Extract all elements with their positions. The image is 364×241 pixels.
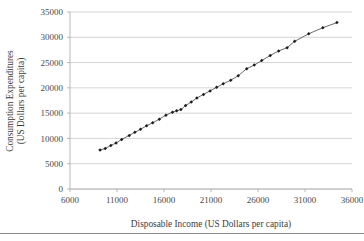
data-point-marker xyxy=(307,32,311,36)
data-point-marker xyxy=(335,21,339,25)
data-point-marker xyxy=(104,147,108,151)
x-tick-label-36000: 36000 xyxy=(341,195,364,205)
data-point-marker xyxy=(215,86,219,90)
data-point-marker xyxy=(229,79,233,83)
data-point-marker xyxy=(151,121,155,125)
data-point-marker xyxy=(260,59,264,63)
data-series xyxy=(98,21,338,152)
y-axis-title-line-2: (US Dollars per capita) xyxy=(16,58,27,144)
data-point-marker xyxy=(145,124,149,128)
y-tick-label-30000: 30000 xyxy=(41,32,64,42)
y-tick-labels: 05000100001500020000250003000035000 xyxy=(41,7,64,194)
data-point-marker xyxy=(127,134,131,138)
x-tick-labels: 6000110001600021000260003100036000 xyxy=(61,195,364,205)
x-axis-title: Disposable Income (US Dollars per capita… xyxy=(131,219,291,230)
y-tick-label-0: 0 xyxy=(59,184,64,194)
data-point-marker xyxy=(175,109,179,113)
x-tick-label-26000: 26000 xyxy=(247,195,270,205)
data-point-marker xyxy=(109,144,113,148)
data-point-marker xyxy=(98,148,102,152)
data-point-marker xyxy=(321,26,325,30)
chart-figure: 05000100001500020000250003000035000 6000… xyxy=(0,0,364,241)
scatter-chart: 05000100001500020000250003000035000 6000… xyxy=(0,0,364,241)
y-axis-title-line-1: Consumption Expenditures xyxy=(5,50,15,152)
x-axis-line-group xyxy=(70,189,352,192)
data-point-marker xyxy=(158,117,162,121)
y-tick-label-10000: 10000 xyxy=(41,134,64,144)
y-tick-label-20000: 20000 xyxy=(41,83,64,93)
x-tick-label-6000: 6000 xyxy=(61,195,80,205)
y-tick-label-5000: 5000 xyxy=(45,159,64,169)
data-point-marker xyxy=(208,89,212,93)
y-tick-label-25000: 25000 xyxy=(41,58,64,68)
data-point-marker xyxy=(268,54,272,58)
data-point-marker xyxy=(221,82,225,86)
data-point-marker xyxy=(139,128,143,132)
y-axis-line-group xyxy=(67,12,70,189)
data-point-marker xyxy=(133,131,137,135)
data-point-marker xyxy=(114,141,118,145)
footer-divider xyxy=(0,233,364,234)
x-tick-label-11000: 11000 xyxy=(106,195,129,205)
data-point-marker xyxy=(252,63,256,67)
data-point-marker xyxy=(202,93,206,97)
x-tick-label-31000: 31000 xyxy=(294,195,317,205)
x-tick-label-21000: 21000 xyxy=(200,195,223,205)
gridlines xyxy=(70,12,352,189)
y-tick-label-15000: 15000 xyxy=(41,108,64,118)
series-line-0 xyxy=(100,23,337,150)
x-tick-label-16000: 16000 xyxy=(153,195,176,205)
data-point-marker xyxy=(164,113,168,116)
data-point-marker xyxy=(277,49,281,53)
y-tick-label-35000: 35000 xyxy=(41,7,64,17)
